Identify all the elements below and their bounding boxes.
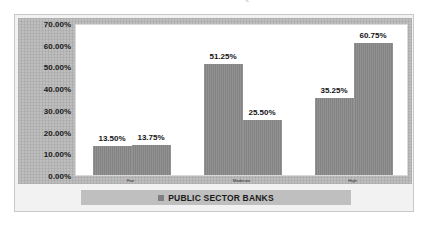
bar-group-high: 35.25% 60.75% <box>298 25 409 175</box>
bars-container: 13.50% 13.75% 51.25% 25.50% <box>76 25 407 175</box>
y-axis-tick: 40.00% <box>18 85 71 94</box>
bar-wrapper: 35.25% <box>315 25 354 175</box>
bar-value-label: 35.25% <box>320 86 347 95</box>
bar[interactable] <box>204 64 243 175</box>
chart-plot-band: 70.00% 60.00% 50.00% 40.00% 30.00% 20.00… <box>18 18 412 184</box>
bar[interactable] <box>243 120 282 175</box>
bar-wrapper: 13.50% <box>93 25 132 175</box>
bar-group-fair: 13.50% 13.75% <box>76 25 187 175</box>
chart-frame: 70.00% 60.00% 50.00% 40.00% 30.00% 20.00… <box>14 14 414 212</box>
bar-value-label: 25.50% <box>248 108 275 117</box>
y-axis-tick: 70.00% <box>18 20 71 29</box>
y-axis: 70.00% 60.00% 50.00% 40.00% 30.00% 20.00… <box>18 18 75 184</box>
bar[interactable] <box>315 98 354 175</box>
y-axis-tick: 50.00% <box>18 63 71 72</box>
y-axis-tick: 0.00% <box>18 172 71 181</box>
bar-value-label: 51.25% <box>209 52 236 61</box>
bar-group-moderate: 51.25% 25.50% <box>187 25 298 175</box>
x-axis-tick-high: High <box>348 178 357 183</box>
bar-value-label: 60.75% <box>359 31 386 40</box>
x-axis: Fair Moderate High <box>75 177 408 188</box>
x-axis-tick-fair: Fair <box>127 178 134 183</box>
chart-title: PERCEPTION OF CUSTOMERS TOWARDS SERVICE … <box>0 0 428 4</box>
legend-label: PUBLIC SECTOR BANKS <box>168 193 274 203</box>
bar-wrapper: 60.75% <box>354 25 393 175</box>
x-axis-tick-moderate: Moderate <box>233 178 251 183</box>
bar[interactable] <box>132 145 171 175</box>
bar-wrapper: 13.75% <box>132 25 171 175</box>
square-marker-icon <box>158 195 164 201</box>
chart-plot-area: 13.50% 13.75% 51.25% 25.50% <box>75 24 408 176</box>
bar-wrapper: 51.25% <box>204 25 243 175</box>
bar[interactable] <box>354 43 393 175</box>
bar-value-label: 13.50% <box>98 134 125 143</box>
bar-wrapper: 25.50% <box>243 25 282 175</box>
y-axis-tick: 10.00% <box>18 150 71 159</box>
y-axis-tick: 60.00% <box>18 41 71 50</box>
chart-legend[interactable]: PUBLIC SECTOR BANKS <box>81 190 351 205</box>
y-axis-tick: 20.00% <box>18 128 71 137</box>
y-axis-tick: 30.00% <box>18 106 71 115</box>
bar[interactable] <box>93 146 132 175</box>
bar-value-label: 13.75% <box>137 133 164 142</box>
